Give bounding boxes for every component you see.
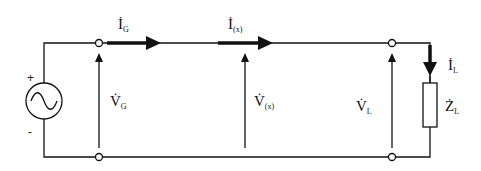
terminal-l-bottom: [389, 154, 396, 161]
current-arrow-l: [423, 45, 437, 83]
label-i-l: İL: [448, 57, 458, 75]
label-v-x: V̇(x): [254, 93, 275, 111]
label-i-x: İ(x): [228, 16, 243, 34]
plus-sign: +: [27, 71, 34, 85]
voltage-arrow-g: [95, 53, 103, 148]
minus-sign: -: [28, 125, 32, 139]
label-v-g: V̇G: [110, 93, 127, 111]
voltage-arrow-l: [388, 53, 396, 148]
top-left-wire: [44, 43, 96, 83]
voltage-arrow-x: [241, 53, 249, 148]
current-arrow-x: [218, 36, 273, 50]
terminal-g-bottom: [96, 154, 103, 161]
current-arrow-g: [107, 36, 161, 50]
ac-source-icon: [26, 83, 62, 119]
bottom-left-wire: [44, 119, 96, 157]
label-v-l: V̇L: [356, 98, 372, 116]
label-i-g: İG: [118, 16, 129, 34]
impedance-zl: [423, 83, 437, 127]
terminal-l-top: [389, 40, 396, 47]
terminal-g-top: [96, 40, 103, 47]
bottom-right-wire: [395, 127, 430, 157]
circuit-diagram: + - İG İ(x) İL V̇G V̇(x) V̇L ŻL: [0, 0, 481, 171]
label-z-l: ŻL: [445, 98, 459, 116]
